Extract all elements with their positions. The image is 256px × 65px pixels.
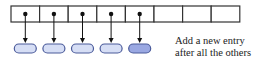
caption-line-1: Add a new entry: [175, 35, 256, 47]
arrowhead-icon: [137, 38, 142, 43]
caption: Add a new entry after all the others: [175, 35, 256, 59]
arrowhead-icon: [109, 38, 114, 43]
arrowhead-icon: [51, 38, 56, 43]
new-entry-node: [129, 44, 151, 53]
entry-node: [14, 44, 36, 53]
array-cell: [154, 6, 183, 22]
array-cell: [183, 6, 212, 22]
caption-line-2: after all the others: [175, 47, 256, 59]
arrowhead-icon: [80, 38, 85, 43]
entry-node: [43, 44, 65, 53]
entry-node: [72, 44, 94, 53]
array-cell: [211, 6, 240, 22]
arrowhead-icon: [23, 38, 28, 43]
entry-node: [100, 44, 122, 53]
